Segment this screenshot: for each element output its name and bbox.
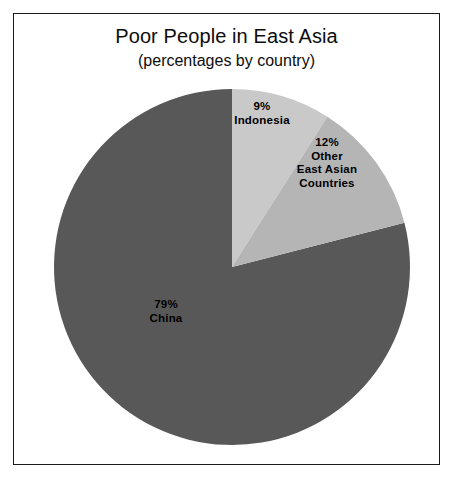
pie-svg bbox=[0, 0, 458, 484]
other-percent: 12% bbox=[315, 136, 339, 148]
pie-chart-figure: Poor People in East Asia (percentages by… bbox=[0, 0, 458, 484]
pie-plot-area: 9% Indonesia 12% Other East Asian Countr… bbox=[0, 0, 458, 484]
slice-label-china: 79% China bbox=[118, 298, 214, 325]
china-percent: 79% bbox=[154, 298, 178, 310]
china-name: China bbox=[150, 312, 183, 324]
indonesia-name: Indonesia bbox=[234, 114, 289, 126]
other-name-line2: East Asian bbox=[297, 163, 357, 175]
slice-label-other-east-asian-countries: 12% Other East Asian Countries bbox=[272, 136, 382, 190]
indonesia-percent: 9% bbox=[253, 100, 270, 112]
other-name-line3: Countries bbox=[299, 177, 354, 189]
slice-label-indonesia: 9% Indonesia bbox=[214, 100, 310, 127]
other-name-line1: Other bbox=[311, 150, 343, 162]
